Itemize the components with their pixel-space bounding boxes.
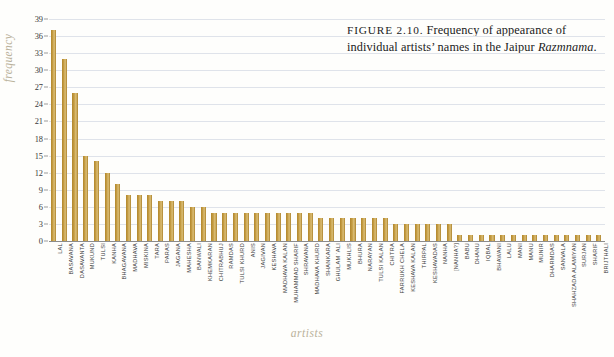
bar-slot[interactable]	[135, 19, 146, 241]
bar-slot[interactable]	[209, 19, 220, 241]
bar[interactable]	[447, 224, 452, 241]
bar[interactable]	[350, 218, 355, 241]
bar[interactable]	[425, 224, 430, 241]
bar-slot[interactable]	[370, 19, 381, 241]
bar-slot[interactable]	[477, 19, 488, 241]
bar-slot[interactable]	[434, 19, 445, 241]
bar[interactable]	[564, 235, 569, 241]
bar[interactable]	[318, 218, 323, 241]
bar[interactable]	[393, 224, 398, 241]
bar[interactable]	[265, 213, 270, 241]
bar-slot[interactable]	[380, 19, 391, 241]
bar-slot[interactable]	[584, 19, 595, 241]
bar[interactable]	[286, 213, 291, 241]
bar[interactable]	[137, 195, 142, 241]
bar[interactable]	[575, 235, 580, 241]
bar-slot[interactable]	[306, 19, 317, 241]
bar[interactable]	[404, 224, 409, 241]
bar-slot[interactable]	[124, 19, 135, 241]
bar-slot[interactable]	[145, 19, 156, 241]
bar[interactable]	[179, 201, 184, 241]
bar[interactable]	[383, 218, 388, 241]
bar[interactable]	[72, 93, 77, 241]
bar[interactable]	[361, 218, 366, 241]
bar-slot[interactable]	[263, 19, 274, 241]
bar[interactable]	[211, 213, 216, 241]
bar-slot[interactable]	[562, 19, 573, 241]
bar-slot[interactable]	[423, 19, 434, 241]
bar[interactable]	[308, 213, 313, 241]
bar[interactable]	[340, 218, 345, 241]
bar-slot[interactable]	[81, 19, 92, 241]
bar-slot[interactable]	[49, 19, 60, 241]
bar-slot[interactable]	[455, 19, 466, 241]
bar-slot[interactable]	[231, 19, 242, 241]
bar[interactable]	[457, 235, 462, 241]
bar[interactable]	[147, 195, 152, 241]
bar-slot[interactable]	[359, 19, 370, 241]
bar[interactable]	[276, 213, 281, 241]
bar[interactable]	[532, 235, 537, 241]
bar-slot[interactable]	[573, 19, 584, 241]
bar[interactable]	[415, 224, 420, 241]
bar[interactable]	[62, 59, 67, 241]
bar-slot[interactable]	[348, 19, 359, 241]
bar[interactable]	[297, 213, 302, 241]
bar-slot[interactable]	[552, 19, 563, 241]
bar-slot[interactable]	[594, 19, 605, 241]
bar-slot[interactable]	[167, 19, 178, 241]
bar-slot[interactable]	[509, 19, 520, 241]
bar-slot[interactable]	[252, 19, 263, 241]
bar[interactable]	[126, 195, 131, 241]
bar-slot[interactable]	[241, 19, 252, 241]
bar[interactable]	[158, 201, 163, 241]
bar[interactable]	[94, 161, 99, 241]
bar[interactable]	[586, 235, 591, 241]
bar-slot[interactable]	[60, 19, 71, 241]
bar-slot[interactable]	[156, 19, 167, 241]
bar-slot[interactable]	[70, 19, 81, 241]
bar[interactable]	[554, 235, 559, 241]
bar[interactable]	[222, 213, 227, 241]
bar-slot[interactable]	[402, 19, 413, 241]
bar[interactable]	[233, 213, 238, 241]
bar[interactable]	[479, 235, 484, 241]
bar[interactable]	[329, 218, 334, 241]
bar-slot[interactable]	[220, 19, 231, 241]
bar[interactable]	[500, 235, 505, 241]
bar[interactable]	[115, 184, 120, 241]
bar[interactable]	[201, 207, 206, 241]
bar-slot[interactable]	[541, 19, 552, 241]
bar[interactable]	[169, 201, 174, 241]
bar[interactable]	[190, 207, 195, 241]
bar[interactable]	[522, 235, 527, 241]
bar-slot[interactable]	[530, 19, 541, 241]
bar-slot[interactable]	[92, 19, 103, 241]
bar-slot[interactable]	[487, 19, 498, 241]
bar-slot[interactable]	[466, 19, 477, 241]
bar-slot[interactable]	[445, 19, 456, 241]
bar-slot[interactable]	[316, 19, 327, 241]
bar-slot[interactable]	[295, 19, 306, 241]
bar[interactable]	[596, 235, 601, 241]
bar[interactable]	[83, 156, 88, 241]
bar-slot[interactable]	[338, 19, 349, 241]
bar[interactable]	[543, 235, 548, 241]
bar-slot[interactable]	[274, 19, 285, 241]
bar[interactable]	[436, 224, 441, 241]
bar[interactable]	[511, 235, 516, 241]
bar-slot[interactable]	[188, 19, 199, 241]
bar-slot[interactable]	[391, 19, 402, 241]
bar-slot[interactable]	[519, 19, 530, 241]
bar-slot[interactable]	[177, 19, 188, 241]
bar-slot[interactable]	[327, 19, 338, 241]
bar-slot[interactable]	[413, 19, 424, 241]
bar-slot[interactable]	[199, 19, 210, 241]
bar[interactable]	[468, 235, 473, 241]
bar-slot[interactable]	[284, 19, 295, 241]
bar[interactable]	[244, 213, 249, 241]
bar[interactable]	[254, 213, 259, 241]
bar[interactable]	[372, 218, 377, 241]
bar[interactable]	[489, 235, 494, 241]
bar-slot[interactable]	[102, 19, 113, 241]
